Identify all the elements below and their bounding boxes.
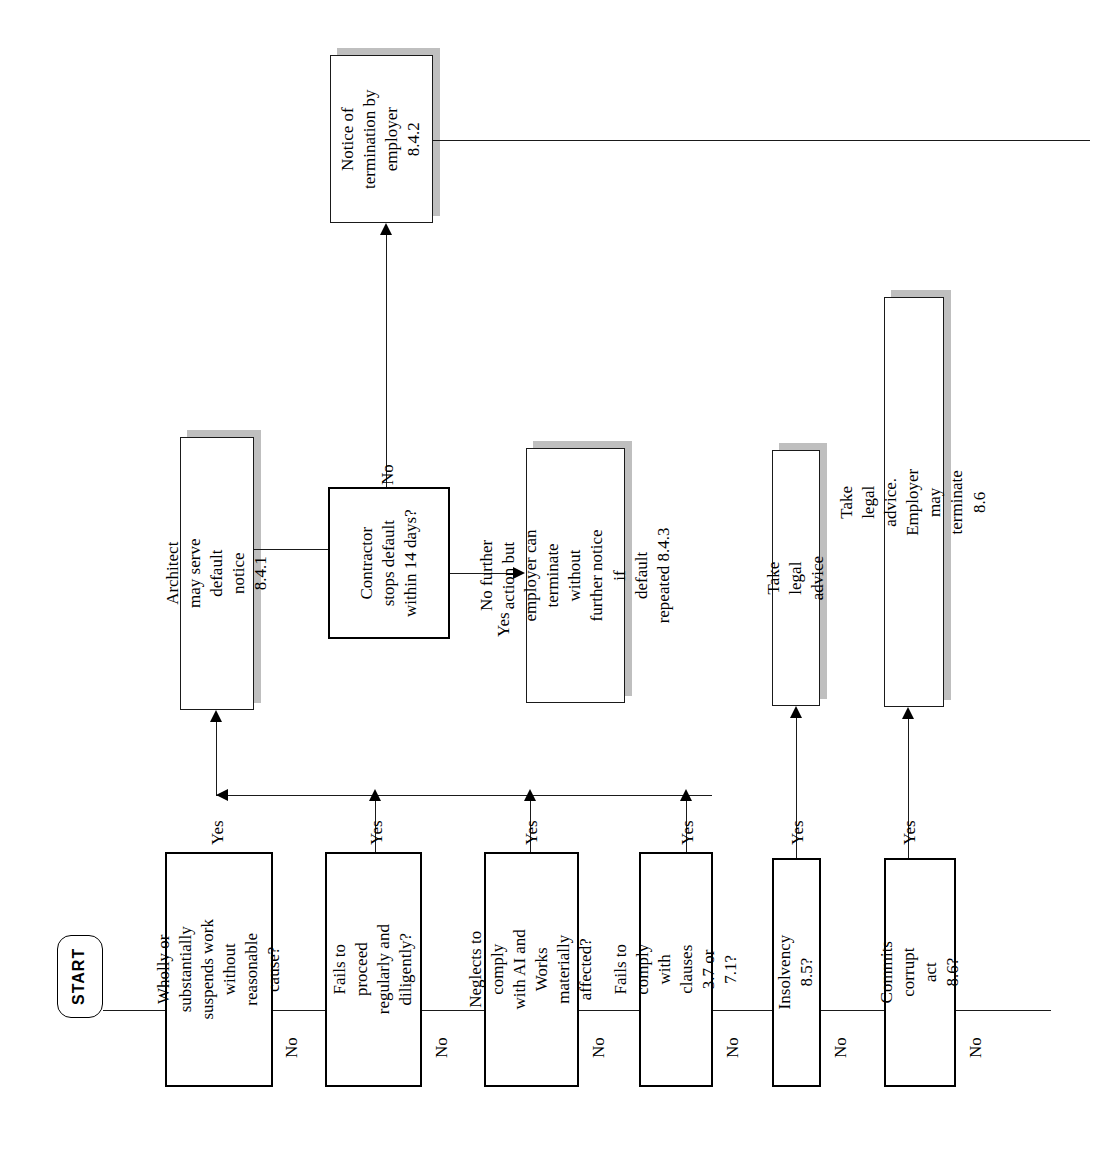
arrowhead-collector-into-architect-stem [216, 789, 228, 801]
node-architect-default-notice[interactable]: Architect may serve default notice 8.4.1 [180, 437, 254, 710]
node-take-legal-advice-terminate[interactable]: Take legal advice. Employer may terminat… [884, 297, 944, 707]
node-take-legal-advice-terminate-label: Take legal advice. Employer may terminat… [837, 468, 992, 535]
arrowhead-into-take-legal-advice [790, 706, 802, 718]
edge-label-suspends-no: No [282, 1037, 302, 1058]
edge-label-fails-proceed-yes: Yes [367, 820, 387, 845]
connector-no-suspends-to-fails-proceed [273, 1010, 325, 1011]
node-start[interactable]: START [57, 935, 103, 1018]
connector-no-fails-clauses-to-insolvency [713, 1010, 772, 1011]
edge-label-fails-clauses-no: No [723, 1037, 743, 1058]
connector-no-insolvency-to-corrupt [821, 1010, 884, 1011]
connector-architect-to-contractor [254, 549, 328, 550]
connector-contractor-no-vertical [386, 235, 387, 488]
node-no-further-action-label: No further action but employer can termi… [476, 527, 675, 624]
node-notice-of-termination-label: Notice of termination by employer 8.4.2 [337, 89, 425, 190]
node-start-label: START [70, 948, 91, 1005]
node-question-corrupt-act-label: Commits corrupt act 8.6? [876, 939, 964, 1007]
node-question-fails-clauses-label: Fails to comply with clauses 3.7 or 7.1? [610, 935, 743, 1005]
arrowhead-fails-proceed-yes [369, 789, 381, 801]
edge-label-fails-proceed-no: No [432, 1037, 452, 1058]
node-take-legal-advice[interactable]: Take legal advice [772, 450, 820, 706]
edge-label-corrupt-no: No [966, 1037, 986, 1058]
edge-label-contractor-no: No [378, 464, 398, 485]
node-question-neglects-ai[interactable]: Neglects to comply with AI and Works mat… [484, 852, 579, 1087]
node-take-legal-advice-label: Take legal advice [763, 555, 829, 601]
node-question-suspends-work-label: Wholly or substantially suspends work wi… [153, 918, 286, 1022]
flowchart-canvas: Notice of termination by employer 8.4.2 … [0, 0, 1113, 1150]
edge-label-corrupt-yes: Yes [900, 820, 920, 845]
arrowhead-into-notice [380, 223, 392, 235]
node-contractor-stops-default[interactable]: Contractor stops default within 14 days? [328, 487, 450, 639]
node-question-insolvency-label: Insolvency 8.5? [774, 935, 818, 1010]
arrowhead-fails-clauses-yes [680, 789, 692, 801]
edge-label-insolvency-no: No [831, 1037, 851, 1058]
node-question-insolvency[interactable]: Insolvency 8.5? [772, 858, 821, 1087]
node-contractor-stops-default-label: Contractor stops default within 14 days? [356, 504, 422, 622]
node-question-fails-clauses[interactable]: Fails to comply with clauses 3.7 or 7.1? [639, 852, 713, 1087]
arrowhead-into-architect [210, 710, 222, 722]
connector-collector-to-architect [216, 722, 217, 796]
collector-line-yes-bus [216, 795, 712, 796]
edge-label-neglects-no: No [589, 1037, 609, 1058]
node-question-fails-proceed[interactable]: Fails to proceed regularly and diligentl… [325, 852, 422, 1087]
arrowhead-into-take-legal-advice-terminate [902, 707, 914, 719]
connector-no-neglects-to-fails-clauses [579, 1010, 639, 1011]
edge-label-insolvency-yes: Yes [788, 820, 808, 845]
edge-label-fails-clauses-yes: Yes [678, 820, 698, 845]
connector-no-fails-proceed-to-neglects [422, 1010, 484, 1011]
connector-no-corrupt-to-right-edge [956, 1010, 1051, 1011]
node-question-neglects-ai-label: Neglects to comply with AI and Works mat… [465, 924, 598, 1015]
arrowhead-neglects-yes [524, 789, 536, 801]
node-question-fails-proceed-label: Fails to proceed regularly and diligentl… [329, 923, 417, 1016]
node-no-further-action[interactable]: No further action but employer can termi… [526, 448, 625, 703]
edge-label-suspends-yes: Yes [208, 820, 228, 845]
node-notice-of-termination[interactable]: Notice of termination by employer 8.4.2 [330, 55, 433, 223]
edge-label-neglects-yes: Yes [522, 820, 542, 845]
node-question-suspends-work[interactable]: Wholly or substantially suspends work wi… [165, 852, 273, 1087]
node-question-corrupt-act[interactable]: Commits corrupt act 8.6? [884, 858, 956, 1087]
connector-notice-to-right-edge [433, 140, 1090, 141]
